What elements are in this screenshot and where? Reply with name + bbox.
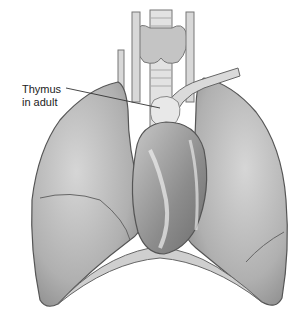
- thymus-label-line1: Thymus: [22, 83, 61, 96]
- thymus-label-line2: in adult: [22, 96, 57, 109]
- thyroid: [136, 25, 187, 63]
- anatomy-illustration: [0, 0, 306, 319]
- thorax-drawing: [0, 0, 306, 319]
- left-lung: [32, 82, 144, 306]
